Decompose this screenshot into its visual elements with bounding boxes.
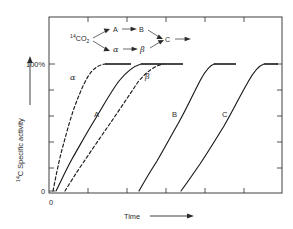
curve-B-path [139, 64, 214, 191]
x-axis-title: Time [124, 212, 140, 221]
curve-beta-path [65, 64, 163, 191]
curve-C-path [181, 64, 264, 191]
scheme-arrowhead-up [104, 29, 110, 34]
curve-label-B: B [172, 110, 177, 119]
x-origin-label: 0 [49, 198, 53, 207]
curve-C: C [181, 64, 278, 191]
curve-A-path [56, 64, 141, 191]
curve-beta: β [65, 64, 183, 191]
x-axis-title-group: Time [124, 212, 194, 221]
scheme-arrowhead-bc [156, 35, 163, 40]
chart-svg: 100% 0 14C Specific activity 0 Time 14CO… [0, 0, 293, 229]
y-axis-title: 14C Specific activity [15, 118, 25, 182]
curve-A: A [56, 64, 163, 191]
scheme-label-B: B [139, 25, 144, 34]
y-axis-title-group: 14C Specific activity [15, 56, 33, 182]
scheme-arrowhead-ab [131, 27, 137, 32]
curve-label-C: C [222, 110, 228, 119]
curve-label-beta: β [144, 71, 150, 81]
scheme-arrowhead-beta-c [158, 40, 164, 45]
scheme-label-A: A [113, 25, 118, 34]
scheme-source-subscript: 2 [87, 38, 90, 44]
curve-label-alpha: α [70, 72, 76, 82]
scheme-label-alpha: α [113, 44, 119, 54]
curve-label-A: A [94, 110, 100, 119]
scheme-source-text: CO [76, 34, 87, 43]
scheme-label-C: C [165, 35, 170, 44]
scheme-arrowhead-exit [185, 37, 191, 42]
curve-alpha-path [53, 64, 105, 191]
reaction-scheme: 14CO2 A B α β C [70, 25, 191, 54]
scheme-arrowhead-down [103, 47, 110, 52]
y-tick-label-0: 0 [41, 187, 45, 196]
x-axis-arrowhead [187, 213, 194, 218]
figure-container: 100% 0 14C Specific activity 0 Time 14CO… [0, 0, 293, 229]
curve-B: B [139, 64, 236, 191]
y-axis-title-text: C Specific activity [16, 118, 25, 176]
scheme-label-beta: β [139, 44, 145, 54]
scheme-source-label: 14CO2 [70, 33, 90, 44]
scheme-arrowhead-alpha-beta [132, 47, 138, 52]
